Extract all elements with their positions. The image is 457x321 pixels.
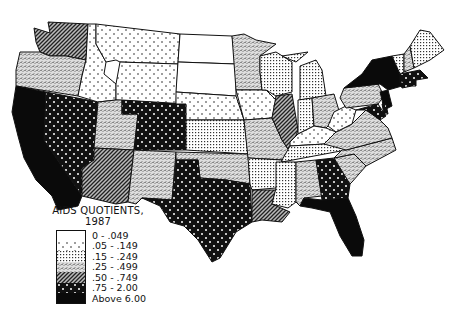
swatch-sparse-dots [56, 241, 86, 252]
legend-label: .15 - .249 [92, 251, 138, 262]
legend-item: .75 - 2.00 [56, 283, 170, 294]
legend-body: 0 - .049 .05 - .149 .15 - .249 .25 - .49… [56, 230, 170, 304]
legend-title-line1: AIDS QUOTIENTS, [50, 205, 146, 216]
state-NM [128, 150, 176, 204]
legend-label: 0 - .049 [92, 230, 129, 241]
legend-item: 0 - .049 [56, 230, 170, 241]
swatch-dash-hatch [56, 262, 86, 273]
state-ND [178, 34, 236, 64]
legend-item: .05 - .149 [56, 241, 170, 252]
state-ME [410, 30, 444, 68]
legend-item: .25 - .499 [56, 262, 170, 273]
swatch-white [56, 230, 86, 241]
legend-label: .05 - .149 [92, 240, 138, 251]
legend: AIDS QUOTIENTS, 1987 0 - .049 .05 - .149… [50, 205, 170, 304]
swatch-diagonal-lines [56, 272, 86, 283]
state-SD [176, 62, 236, 96]
swatch-dense-dots [56, 251, 86, 262]
legend-item: .15 - .249 [56, 251, 170, 262]
legend-label: .25 - .499 [92, 261, 138, 272]
state-WY [116, 62, 178, 104]
state-KS [186, 120, 248, 154]
legend-label: .50 - .749 [92, 272, 138, 283]
state-MS [272, 162, 296, 208]
legend-label: Above 6.00 [92, 293, 146, 304]
legend-item: Above 6.00 [56, 293, 170, 304]
state-NY [344, 56, 402, 90]
legend-title: AIDS QUOTIENTS, 1987 [50, 205, 146, 227]
state-MT [96, 24, 180, 64]
state-NE [176, 92, 244, 120]
legend-item: .50 - .749 [56, 272, 170, 283]
state-FL [300, 198, 364, 256]
legend-label: .75 - 2.00 [92, 282, 138, 293]
legend-title-line2: 1987 [50, 216, 146, 227]
swatch-solid-black [56, 293, 86, 304]
swatch-black-white-dots [56, 283, 86, 294]
